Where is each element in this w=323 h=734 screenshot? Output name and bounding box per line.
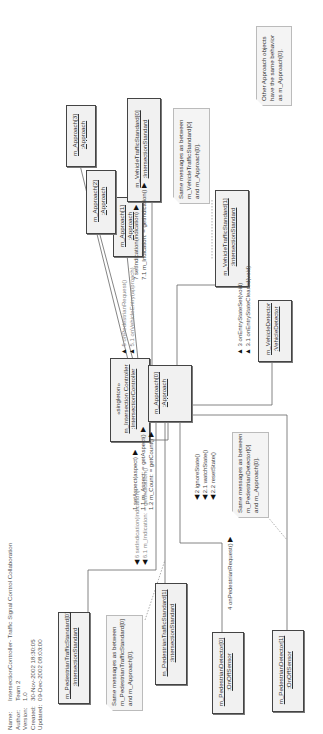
- arrow-left-icon: ◀: [201, 495, 208, 500]
- arrow-up-icon: ▲: [236, 348, 243, 355]
- note-line: m_PedestrianDetector[0]: [244, 434, 252, 513]
- object-class: :OnOffSensor: [285, 633, 293, 707]
- note-line: Same messages as between: [177, 120, 185, 199]
- message: 5 onPedestrianRequest(): [121, 280, 127, 347]
- message-group-vts-approach: 7 setIndication(indication) ▶ 7.1 m_Indi…: [132, 183, 148, 280]
- message-group-approach-controller: ▲ 5 onPedestrianRequest() ▲ 5.1 onVehicl…: [120, 267, 136, 355]
- note-line: Same messages as between: [236, 434, 244, 513]
- header-key: Author:: [14, 701, 22, 730]
- diagram-header: Name:IntersectionController- Traffic Sig…: [6, 539, 44, 730]
- header-key: Updated:: [36, 701, 44, 730]
- object-name: m_Approach[3]: [71, 107, 79, 163]
- object-name: m_Intersection Controller: [122, 360, 130, 438]
- header-value: IntersectionController- Traffic Signal C…: [6, 539, 14, 701]
- arrow-up-icon: ▲: [120, 348, 127, 355]
- header-key: Name:: [6, 701, 14, 730]
- object-class: :IntersectionController: [129, 360, 137, 438]
- object-label: m_PedestrianTrafficStandard[1] :Intersec…: [160, 586, 175, 680]
- message-group-vehicle-detector: ▲ 3 onEntryStateSet(void) ▲ 3.1 onEntryS…: [236, 266, 252, 355]
- header-value: 30-Nov-2002 18:30:05: [29, 539, 37, 701]
- header-value: 1.0: [21, 539, 29, 701]
- object-class: :Approach: [79, 107, 87, 163]
- note-line: m_PedestrianTrafficStandard[0]: [118, 619, 126, 706]
- note-text: Same messages as between m_VehicleTraffi…: [177, 120, 201, 199]
- arrow-right-icon: ▶: [140, 183, 147, 188]
- arrow-right-icon: ▶: [131, 450, 138, 455]
- message-group-approach-detector: ◀ 2 ignoreState() ◀ 2.1 watchState() ◀ 2…: [193, 450, 217, 500]
- header-value: Team 2: [14, 539, 22, 701]
- message-pedestrian-request: 4 onPedestrianRequest() ▶: [226, 537, 234, 610]
- object-label: «singleton» m_Intersection Controller :I…: [114, 360, 137, 438]
- object-name: m_Approach[0]: [152, 368, 160, 418]
- object-class: :IntersectionStandard: [71, 615, 79, 699]
- object-class: :IntersectionStandard: [168, 586, 176, 680]
- header-value: 09-Dec-2002 08:03:00: [36, 539, 44, 701]
- message: 2 ignoreState(): [194, 454, 200, 494]
- note-line: as m_Approach[0].: [276, 35, 284, 101]
- note-line: Other Approach objects: [260, 35, 268, 101]
- note-line: and m_Approach[0].: [126, 619, 134, 706]
- object-name: m_PedestrianTrafficStandard[0]: [63, 615, 71, 699]
- object-label: m_PedestrianDetector[0] :OnOffSensor: [217, 635, 232, 709]
- note-text: Same messages as between m_PedestrianTra…: [110, 619, 134, 706]
- note-text: Same messages as between m_PedestrianDet…: [236, 434, 260, 513]
- arrow-right-icon: ▶: [139, 427, 146, 432]
- message-group-pts-approach: ◀ 6 setIndication(indication) ◀ 6.1 m_In…: [133, 468, 149, 565]
- stereotype: «singleton»: [114, 383, 121, 415]
- object-name: m_Approach[2]: [91, 172, 99, 230]
- object-label: m_Approach[1] :Approach: [118, 199, 133, 253]
- arrow-right-icon: ▶: [147, 432, 154, 437]
- object-label: m_PedestrianDetector[1] :OnOffSensor: [277, 633, 292, 707]
- message: 7 setIndication(indication): [133, 212, 139, 280]
- note-line: and m_Approach[0].: [252, 434, 260, 513]
- note-line: Same messages as between: [110, 619, 118, 706]
- object-label: m_Approach[3] :Approach: [71, 107, 86, 163]
- message: 6 setIndication(indication): [134, 490, 140, 558]
- object-name: m_VehicleDetector: [264, 301, 272, 357]
- arrow-left-icon: ◀: [193, 495, 200, 500]
- message: 2.2 resetState(): [210, 452, 216, 493]
- message: 7.1 m_Indication: = getIndication(): [141, 189, 147, 280]
- message: 6.1 m_Indication: = getIndication(): [142, 468, 148, 559]
- note-text: Other Approach objects have the same beh…: [260, 35, 284, 101]
- message: 3.1 onEntryStateCleared(void): [245, 266, 251, 347]
- object-name: m_PedestrianDetector[1]: [277, 633, 285, 707]
- object-label: m_Approach[0] :Approach: [152, 368, 167, 418]
- object-name: m_VehicleTrafficStandard[1]: [221, 192, 229, 282]
- message: 2.1 watchState(): [202, 450, 208, 494]
- note-line: and m_Approach[0].: [193, 120, 201, 199]
- header-key: Version:: [21, 701, 29, 730]
- note-line: have the same behavior: [268, 35, 276, 101]
- message: 4 onPedestrianRequest(): [227, 543, 233, 610]
- object-label: m_Approach[2] :Approach: [91, 172, 106, 230]
- note-line: m_VehicleTrafficStandard[0]: [185, 120, 193, 199]
- arrow-right-icon: ▶: [132, 205, 139, 210]
- object-class: :OnOffSensor: [225, 635, 233, 709]
- arrow-left-icon: ◀: [141, 560, 148, 565]
- arrow-up-icon: ▲: [128, 348, 135, 355]
- object-class: :Approach: [99, 172, 107, 230]
- object-class: :Approach: [160, 368, 168, 418]
- object-name: m_PedestrianTrafficStandard[1]: [160, 586, 168, 680]
- object-label: m_VehicleDetector :VehicleDetector: [264, 301, 279, 357]
- object-class: :VehicleDetector: [272, 301, 280, 357]
- arrow-left-icon: ◀: [209, 495, 216, 500]
- object-label: m_VehicleTrafficStandard[1] :Intersectio…: [221, 192, 236, 282]
- object-class: :IntersectionStandard: [229, 192, 237, 282]
- arrow-up-icon: ▲: [244, 348, 251, 355]
- object-name: m_PedestrianDetector[0]: [217, 635, 225, 709]
- object-label: m_PedestrianTrafficStandard[0] :Intersec…: [63, 615, 78, 699]
- arrow-left-icon: ◀: [133, 560, 140, 565]
- object-name: m_Approach[1]: [118, 199, 126, 253]
- header-key: Created:: [29, 701, 37, 730]
- message: 3 onEntryStateSet(void): [237, 283, 243, 347]
- arrow-right-icon: ▶: [226, 537, 233, 542]
